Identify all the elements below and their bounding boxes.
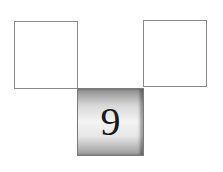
number-label: 9	[101, 102, 121, 142]
number-box: 9	[77, 88, 144, 156]
empty-box-left	[14, 21, 78, 89]
empty-box-right	[143, 20, 207, 87]
